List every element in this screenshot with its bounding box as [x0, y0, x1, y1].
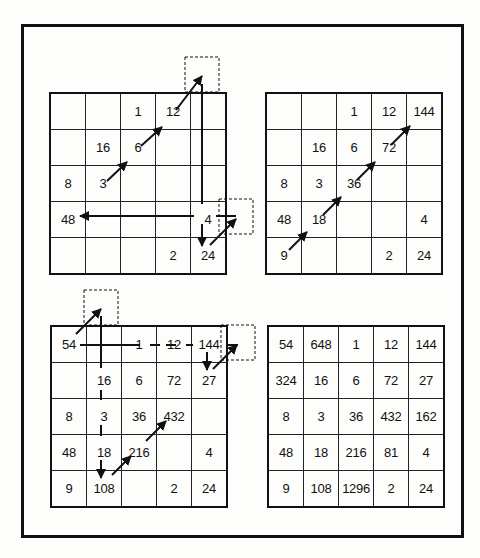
grid-cell [372, 202, 407, 238]
cell-value: 36 [348, 409, 364, 424]
cell-value: 72 [383, 373, 399, 388]
cell-value [207, 176, 209, 191]
cell-value: 216 [128, 445, 151, 460]
grid-cell: 6 [121, 130, 156, 166]
cell-value: 16 [96, 373, 112, 388]
grid-cell [86, 93, 121, 130]
grid-cell: 48 [268, 435, 304, 471]
grid-cell: 16 [304, 363, 339, 399]
cell-value [318, 104, 320, 119]
grid-cell: 24 [409, 471, 445, 508]
grid-row: 112 [50, 93, 226, 130]
grid-cell: 3 [304, 399, 339, 435]
grid-cell [50, 93, 86, 130]
grid-row: 9108224 [51, 471, 227, 508]
grid-cell [86, 238, 121, 275]
cell-value: 144 [415, 337, 438, 352]
cell-value: 16 [95, 140, 111, 155]
grid-cell: 2 [157, 471, 192, 508]
cell-value [353, 212, 355, 227]
cell-value [172, 140, 174, 155]
grid-row: 91081296224 [268, 471, 444, 508]
grid-cell: 1 [337, 93, 372, 130]
grid-cell: 16 [87, 363, 122, 399]
cell-value: 1 [350, 104, 359, 119]
cell-value: 6 [135, 373, 144, 388]
grid-cell [337, 238, 372, 275]
cell-value: 12 [165, 104, 181, 119]
grid-cell: 6 [339, 363, 374, 399]
cell-value: 16 [313, 373, 329, 388]
cell-value: 72 [381, 140, 397, 155]
grid-cell: 108 [87, 471, 122, 508]
cell-value: 48 [278, 445, 294, 460]
cell-value: 432 [163, 409, 186, 424]
cell-value [207, 140, 209, 155]
grid-cell: 16 [86, 130, 121, 166]
cell-value: 6 [350, 140, 359, 155]
grid-bottom-left: 5411214416672278336432481821649108224 [50, 325, 228, 508]
cell-value [423, 176, 425, 191]
grid-row: 3241667227 [268, 363, 444, 399]
cell-value: 54 [61, 337, 77, 352]
cell-value: 8 [65, 409, 74, 424]
grid-cell [407, 166, 443, 202]
cell-value: 144 [413, 104, 436, 119]
cell-value: 2 [385, 248, 394, 263]
cell-value: 72 [166, 373, 182, 388]
grid-cell: 36 [337, 166, 372, 202]
cell-value [172, 212, 174, 227]
grid-cell: 216 [339, 435, 374, 471]
grid-cell: 2 [374, 471, 409, 508]
grid-bottom-right: 5464811214432416672278336432162481821681… [267, 325, 445, 508]
cell-value: 24 [201, 481, 217, 496]
grid-cell: 18 [87, 435, 122, 471]
grid-row: 48182164 [51, 435, 227, 471]
cell-value: 144 [198, 337, 221, 352]
grid-cell: 24 [192, 471, 228, 508]
grid-cell: 3 [87, 399, 122, 435]
grid-row: 16672 [266, 130, 442, 166]
cell-value: 12 [166, 337, 182, 352]
cell-value: 9 [280, 248, 289, 263]
cell-value: 162 [415, 409, 438, 424]
cell-value [102, 248, 104, 263]
grid-cell: 1 [339, 326, 374, 363]
cell-value: 12 [383, 337, 399, 352]
cell-value: 1 [352, 337, 361, 352]
grid-cell [156, 202, 191, 238]
cell-value: 18 [313, 445, 329, 460]
grid-cell: 432 [157, 399, 192, 435]
grid-cell: 4 [409, 435, 445, 471]
grid-top-left: 11216683484224 [49, 92, 227, 275]
cell-value: 12 [381, 104, 397, 119]
grid-cell: 144 [409, 326, 445, 363]
cell-value: 2 [170, 481, 179, 496]
grid-cell: 18 [302, 202, 337, 238]
grid-cell: 8 [266, 166, 302, 202]
grid-row: 1667227 [51, 363, 227, 399]
grid-cell: 4 [407, 202, 443, 238]
grid-cell [122, 471, 157, 508]
cell-value [208, 409, 210, 424]
cell-value [173, 445, 175, 460]
cell-value [353, 248, 355, 263]
grid-row: 8336 [266, 166, 442, 202]
cell-value [388, 176, 390, 191]
grid-row: 8336432 [51, 399, 227, 435]
grid-cell: 18 [304, 435, 339, 471]
grid-cell: 432 [374, 399, 409, 435]
cell-value: 9 [65, 481, 74, 496]
cell-value: 6 [352, 373, 361, 388]
cell-value: 36 [346, 176, 362, 191]
cell-value: 48 [60, 212, 76, 227]
grid-cell: 3 [302, 166, 337, 202]
cell-value [137, 176, 139, 191]
cell-value: 48 [61, 445, 77, 460]
grid-cell [157, 435, 192, 471]
grid-cell: 1 [121, 93, 156, 130]
cell-value [137, 248, 139, 263]
grid-cell: 9 [268, 471, 304, 508]
grid-cell [121, 166, 156, 202]
cell-value: 8 [64, 176, 73, 191]
